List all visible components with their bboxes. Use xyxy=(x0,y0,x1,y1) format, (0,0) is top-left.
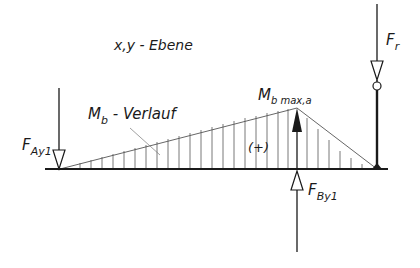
bending-moment-diagram: x,y - Ebene Mb - Verlauf Mb max,a (+) FA… xyxy=(0,0,420,268)
max-moment-label: Mb max,a xyxy=(258,86,312,106)
moment-curve-label: Mb - Verlauf xyxy=(88,105,179,127)
force-A-arrow xyxy=(53,88,65,169)
sign-label: (+) xyxy=(248,140,269,155)
force-B-label: FBy1 xyxy=(308,181,338,203)
force-A-label: FAy1 xyxy=(22,136,52,158)
moment-label-leader xyxy=(130,128,160,155)
plane-label: x,y - Ebene xyxy=(113,37,193,53)
force-r-arrow xyxy=(371,4,383,169)
force-B-arrow xyxy=(291,171,303,252)
max-moment-arrow xyxy=(292,108,302,169)
force-r-label: Fr xyxy=(386,31,401,53)
